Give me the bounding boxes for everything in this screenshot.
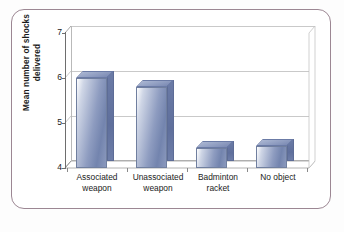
bar-front-face xyxy=(76,78,107,168)
y-tick-mark-7 xyxy=(62,33,66,34)
y-axis-label: Mean number of shocks delivered xyxy=(21,0,42,128)
gridline-7 xyxy=(71,26,315,27)
y-axis-label-line-1: Mean number of shocks xyxy=(21,0,32,128)
y-tick-label-7: 7 xyxy=(46,27,62,37)
figure-canvas: Mean number of shocks delivered 7 6 5 4 xyxy=(0,0,344,232)
y-tick-label-5: 5 xyxy=(46,117,62,127)
bar-top-face xyxy=(256,139,294,146)
bar-top-face xyxy=(196,141,234,148)
bar-side-face xyxy=(107,71,114,161)
bar-side-face xyxy=(167,80,174,161)
y-tick-label-6: 6 xyxy=(46,72,62,82)
y-tick-label-4: 4 xyxy=(46,162,62,172)
bar-front-face xyxy=(256,146,287,169)
y-axis-label-line-2: delivered xyxy=(31,0,42,128)
x-label-line-1: No object xyxy=(243,172,313,183)
plot-area: Mean number of shocks delivered 7 6 5 4 xyxy=(0,0,344,232)
x-tick-label-no-object: No object xyxy=(243,172,313,183)
bar-front-face xyxy=(196,148,227,168)
y-tick-mark-5 xyxy=(62,123,66,124)
bar-front-face xyxy=(136,87,167,168)
x-label-line-2: racket xyxy=(183,183,253,194)
y-tick-mark-4 xyxy=(62,168,66,169)
y-axis-line xyxy=(65,32,66,168)
y-axis-back-edge xyxy=(71,26,72,161)
y-tick-mark-6 xyxy=(62,78,66,79)
